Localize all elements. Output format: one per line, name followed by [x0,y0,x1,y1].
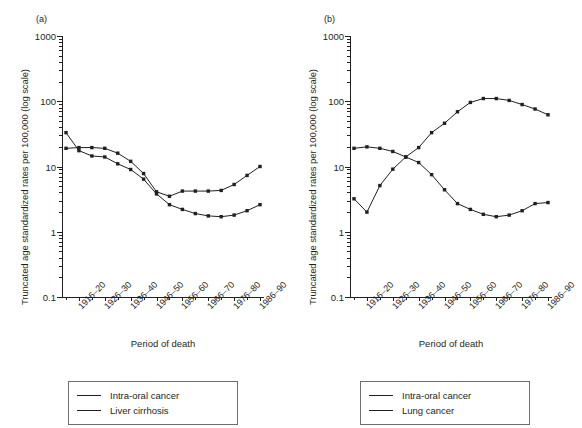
y-tick-minor [59,46,62,47]
legend-item-label: Lung cancer [402,405,454,416]
data-point [430,131,433,134]
y-tick-minor [347,186,350,187]
y-tick-minor [59,111,62,112]
x-tick-minor [66,297,67,300]
y-tick-mark [345,167,350,168]
y-tick-minor [347,42,350,43]
series-line-intra-oral-cancer [66,148,260,197]
panel-b: (b) Truncated age standardized rates per… [291,0,582,428]
legend-item[interactable]: Liver cirrhosis [77,403,227,418]
y-tick-minor [347,212,350,213]
data-point [103,147,106,150]
legend-line-swatch-icon [369,395,393,396]
data-point [546,113,549,116]
y-tick-label: 0.1 [43,292,56,303]
y-tick-minor [347,127,350,128]
y-tick-minor [59,238,62,239]
data-point [232,183,235,186]
data-point [546,201,549,204]
y-tick-minor [347,147,350,148]
y-tick-minor [59,266,62,267]
y-tick-minor [59,177,62,178]
legend-item-label: Liver cirrhosis [110,405,169,416]
panel-b-y-axis-line [350,36,351,297]
data-point [103,155,106,158]
x-tick-minor [354,297,355,300]
data-point [352,147,355,150]
data-point [404,155,407,158]
y-tick-minor [59,169,62,170]
data-point [533,107,536,110]
data-point [168,195,171,198]
y-tick-mark [57,167,62,168]
y-tick-mark [345,232,350,233]
legend-item-label: Intra-oral cancer [402,390,471,401]
y-tick-minor [59,116,62,117]
y-tick-minor [59,82,62,83]
panel-b-series-canvas [350,36,552,297]
y-tick-mark [345,297,350,298]
data-point [520,209,523,212]
data-point [220,189,223,192]
series-line-lung-cancer [354,99,548,213]
y-tick-label: 1000 [323,31,344,42]
y-tick-minor [59,147,62,148]
data-point [258,165,261,168]
data-point [142,177,145,180]
y-tick-minor [59,181,62,182]
y-tick-minor [347,111,350,112]
data-point [207,189,210,192]
data-point [181,208,184,211]
panel-a-y-axis-line [62,36,63,297]
data-point [181,189,184,192]
legend-item[interactable]: Intra-oral cancer [77,388,227,403]
panel-a-y-axis-title: Truncated age standardized rates per 100… [19,69,30,305]
y-tick-minor [59,242,62,243]
data-point [90,146,93,149]
y-tick-minor [59,70,62,71]
data-point [365,145,368,148]
y-tick-minor [347,238,350,239]
figure-root: (a) Truncated age standardized rates per… [0,0,582,428]
data-point [129,168,132,171]
y-tick-label: 100 [40,96,56,107]
y-tick-minor [347,108,350,109]
y-tick-label: 10 [45,161,56,172]
y-tick-minor [347,70,350,71]
panel-b-y-axis-title: Truncated age standardized rates per 100… [307,69,318,305]
y-tick-minor [59,104,62,105]
y-tick-minor [347,192,350,193]
data-point [456,202,459,205]
panel-a-series-canvas [62,36,264,297]
data-point [90,154,93,157]
y-tick-label: 100 [328,96,344,107]
data-point [77,149,80,152]
legend-item[interactable]: Lung cancer [369,403,519,418]
data-point [378,184,381,187]
y-tick-minor [347,169,350,170]
data-point [168,203,171,206]
data-point [417,161,420,164]
y-tick-minor [59,121,62,122]
data-point [482,97,485,100]
y-tick-label: 1 [339,226,344,237]
panel-a-tag: (a) [36,14,47,24]
y-tick-minor [347,116,350,117]
data-point [129,160,132,163]
data-point [443,122,446,125]
data-point [64,131,67,134]
panel-b-legend: Intra-oral cancerLung cancer [360,381,530,425]
y-tick-minor [59,42,62,43]
y-tick-minor [347,277,350,278]
y-tick-mark [57,101,62,102]
data-point [430,173,433,176]
panel-a-x-axis-title: Period of death [62,338,264,349]
y-tick-minor [347,177,350,178]
y-tick-minor [347,242,350,243]
y-tick-minor [59,56,62,57]
data-point [520,103,523,106]
y-tick-minor [347,121,350,122]
data-point [533,202,536,205]
legend-item[interactable]: Intra-oral cancer [369,388,519,403]
data-point [352,197,355,200]
